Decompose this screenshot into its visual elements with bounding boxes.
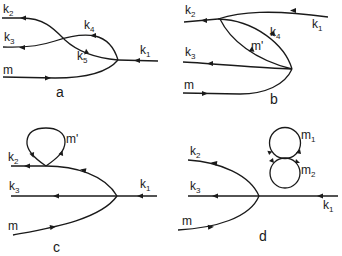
arrow-icon <box>24 164 30 169</box>
label-k3: k3 <box>4 30 15 46</box>
label-k3: k3 <box>9 179 20 195</box>
label-k1: k1 <box>323 198 334 214</box>
arrow-icon <box>19 45 25 50</box>
panel-label-a: a <box>56 84 64 100</box>
label-k2: k2 <box>3 2 14 18</box>
line-k2 <box>11 166 117 196</box>
label-k2: k2 <box>8 150 19 166</box>
label-m: m <box>3 63 13 77</box>
label-k3: k3 <box>185 45 196 61</box>
arrow-icon <box>212 194 218 199</box>
line-k3 <box>183 62 292 69</box>
label-k4: k4 <box>84 18 95 34</box>
label-m1: m1 <box>301 128 316 144</box>
line-m <box>13 196 117 235</box>
panel-label-d: d <box>259 228 267 244</box>
label-m-prime: m' <box>66 132 78 146</box>
line-m <box>3 60 118 78</box>
arrow-icon <box>53 194 59 199</box>
arrow-icon <box>295 159 300 163</box>
label-k4: k4 <box>270 25 281 41</box>
panel-d: m1 m2 k2 k3 k1 m d <box>178 128 338 245</box>
arrow-icon <box>134 58 140 63</box>
label-k2: k2 <box>185 3 196 19</box>
arrow-icon <box>20 16 26 21</box>
arrow-icon <box>84 49 90 56</box>
arrow-icon <box>207 61 213 66</box>
label-m: m <box>182 214 192 228</box>
line-m1-loop <box>270 128 301 159</box>
arrow-icon <box>267 151 273 156</box>
arrow-icon <box>269 158 274 163</box>
arrow-icon <box>202 91 208 96</box>
label-m2: m2 <box>301 163 316 179</box>
arrow-icon <box>137 194 143 199</box>
label-m: m <box>8 219 18 233</box>
label-k1: k1 <box>140 43 151 59</box>
label-k3: k3 <box>190 179 201 195</box>
label-k1: k1 <box>312 17 323 33</box>
panel-b: k2 k1 k4 m' k3 m b <box>183 3 328 107</box>
panel-label-b: b <box>270 91 278 107</box>
arrow-icon <box>201 18 207 23</box>
label-k2: k2 <box>190 144 201 160</box>
panel-c: m' k2 k3 k1 m c <box>8 128 157 255</box>
panel-a: k2 k3 k4 k5 k1 m a <box>2 2 158 100</box>
arrow-icon <box>290 8 296 13</box>
line-m-prime-loop <box>27 128 65 166</box>
feynman-diagram-figure: k2 k3 k4 k5 k1 m a k2 k1 k4 m' k3 m b <box>0 0 342 256</box>
label-m: m <box>184 78 194 92</box>
panel-label-c: c <box>53 239 60 255</box>
label-m-prime: m' <box>251 39 263 53</box>
arrow-icon <box>45 76 51 81</box>
label-k1: k1 <box>140 177 151 193</box>
